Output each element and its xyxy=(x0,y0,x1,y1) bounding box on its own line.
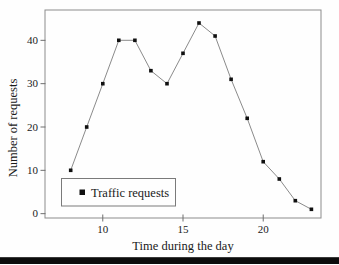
data-point-marker xyxy=(213,34,217,38)
traffic-requests-chart: 010203040 101520 Time during the day Num… xyxy=(0,0,339,257)
data-point-marker xyxy=(69,169,73,173)
x-tick-label: 20 xyxy=(258,223,270,235)
data-point-marker xyxy=(294,199,298,203)
page-bottom-rule xyxy=(0,257,339,264)
data-point-marker xyxy=(117,39,121,43)
data-point-marker xyxy=(165,82,169,86)
y-tick-label: 0 xyxy=(33,207,39,219)
x-axis-label: Time during the day xyxy=(132,239,234,253)
y-tick-label: 40 xyxy=(27,34,39,46)
data-point-marker xyxy=(197,21,201,25)
data-point-marker xyxy=(229,78,233,82)
data-point-marker xyxy=(261,160,265,164)
legend-label: Traffic requests xyxy=(91,186,169,200)
data-point-marker xyxy=(310,208,314,212)
x-tick-label: 15 xyxy=(178,223,190,235)
data-point-marker xyxy=(278,177,282,181)
data-point-marker xyxy=(101,82,105,86)
y-axis-label: Number of requests xyxy=(6,79,20,178)
data-point-marker xyxy=(133,39,137,43)
y-axis-ticks: 010203040 xyxy=(27,34,46,219)
x-tick-label: 10 xyxy=(97,223,109,235)
y-tick-label: 30 xyxy=(27,77,39,89)
legend-marker-square-icon xyxy=(80,190,86,196)
y-tick-label: 10 xyxy=(27,164,39,176)
y-tick-label: 20 xyxy=(27,121,39,133)
data-point-marker xyxy=(85,125,89,129)
chart-figure: 010203040 101520 Time during the day Num… xyxy=(0,0,339,257)
data-point-marker xyxy=(245,117,249,121)
data-point-marker xyxy=(149,69,153,73)
legend: Traffic requests xyxy=(62,179,176,207)
data-point-marker xyxy=(181,52,185,56)
